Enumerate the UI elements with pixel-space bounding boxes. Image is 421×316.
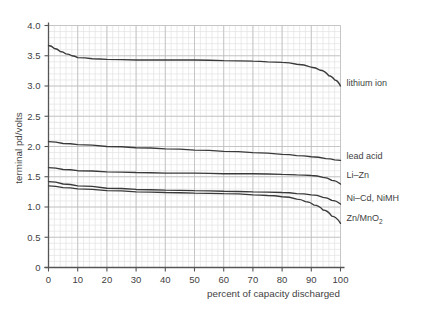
x-tick-label: 50 [189, 274, 200, 285]
x-tick-label: 10 [72, 274, 83, 285]
y-tick-label: 0.5 [27, 232, 40, 243]
series-label-zn-mno2: Zn/MnO2 [347, 213, 384, 225]
y-axis-title: terminal pd/volts [13, 112, 24, 183]
y-tick-label: 4.0 [27, 20, 40, 31]
x-tick-label: 100 [333, 274, 349, 285]
y-tick-label: 1.5 [27, 171, 40, 182]
x-tick-label: 0 [46, 274, 51, 285]
x-axis-title: percent of capacity discharged [207, 288, 340, 299]
x-tick-label: 60 [218, 274, 229, 285]
y-tick-label: 0 [35, 262, 40, 273]
y-tick-label: 2.0 [27, 141, 40, 152]
battery-discharge-chart: 0102030405060708090100 00.51.01.52.02.53… [0, 0, 421, 316]
x-tick-label: 40 [160, 274, 171, 285]
y-tick-label: 1.0 [27, 201, 40, 212]
series-label-ni-cd-nimh: Ni–Cd, NiMH [347, 193, 400, 203]
y-tick-label: 2.5 [27, 111, 40, 122]
x-tick-label: 30 [131, 274, 142, 285]
x-tick-label: 90 [306, 274, 317, 285]
x-tick-label: 20 [102, 274, 113, 285]
series-label-li-zn: Li–Zn [347, 170, 370, 180]
y-tick-labels: 00.51.01.52.02.53.03.54.0 [27, 20, 40, 273]
series-label-lead-acid: lead acid [347, 151, 383, 161]
series-label-lithium-ion: lithium ion [347, 78, 388, 88]
x-tick-label: 70 [248, 274, 259, 285]
y-tick-label: 3.5 [27, 50, 40, 61]
y-tick-label: 3.0 [27, 80, 40, 91]
x-tick-label: 80 [277, 274, 288, 285]
